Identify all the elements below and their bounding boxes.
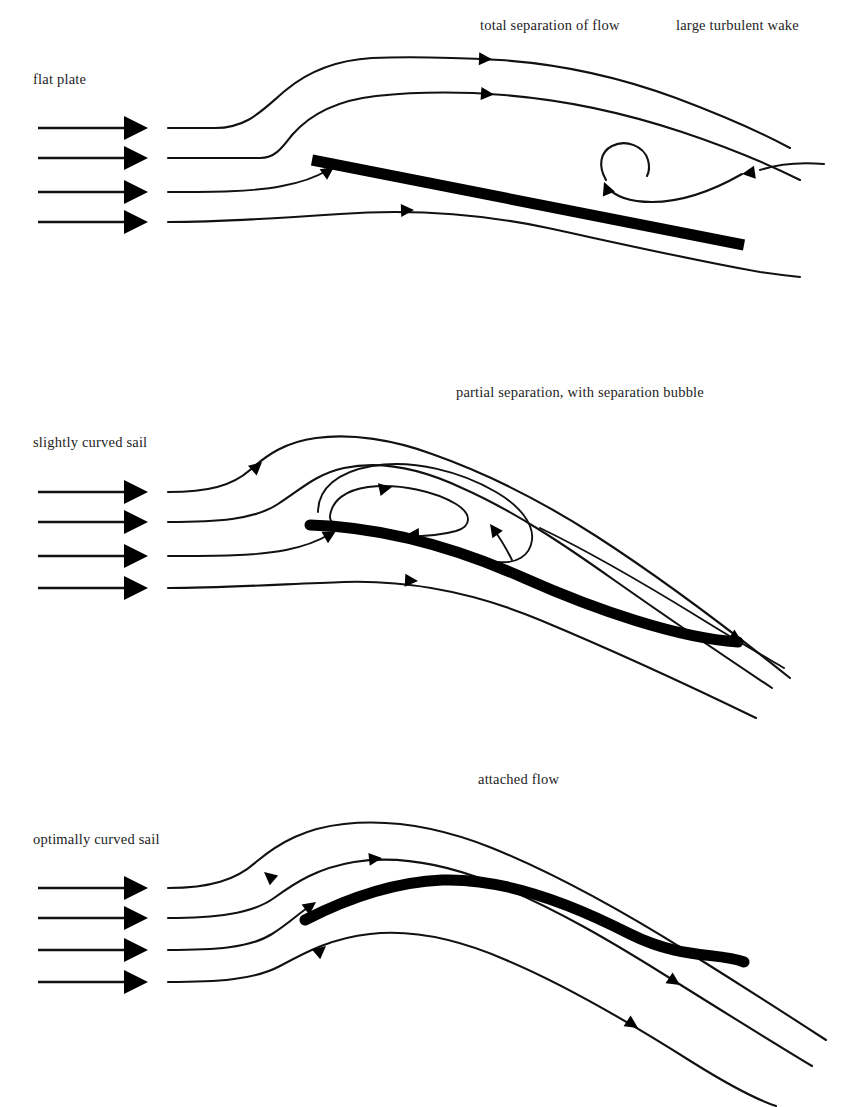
- streamline-3-panel1: [168, 170, 328, 192]
- slightly-curved-sail-foil: [310, 525, 738, 642]
- streamline-arrowhead: [666, 972, 684, 990]
- streamline-1-panel3: [168, 823, 826, 1040]
- panel-flat-plate: [38, 52, 824, 277]
- panel-slightly-curved-sail: [38, 436, 790, 718]
- label-attached-flow: attached flow: [478, 772, 559, 787]
- diagram-canvas: [0, 0, 858, 1107]
- label-flat-plate: flat plate: [33, 72, 86, 87]
- label-total-separation: total separation of flow: [480, 18, 620, 33]
- streamline-arrowhead: [368, 852, 382, 866]
- streamline-arrowhead: [260, 867, 278, 885]
- streamline-arrowhead: [401, 204, 414, 217]
- streamline-4-panel1: [168, 212, 800, 277]
- inlet-arrows-panel1: [38, 116, 148, 234]
- wake-arrowhead-upward: [598, 180, 615, 197]
- label-optimally-curved-sail: optimally curved sail: [33, 832, 160, 847]
- wake-vortex-sweep: [606, 174, 742, 202]
- streamline-arrowhead: [481, 87, 495, 101]
- streamline-arrowhead: [479, 52, 492, 65]
- streamline-4-panel2: [168, 582, 756, 718]
- inlet-arrow-head: [124, 116, 148, 140]
- inlet-arrow-head: [124, 210, 148, 234]
- label-partial-separation: partial separation, with separation bubb…: [456, 385, 704, 400]
- inlet-arrow-head: [124, 480, 148, 504]
- label-slightly-curved-sail: slightly curved sail: [33, 435, 147, 450]
- reattachment-arrowhead: [485, 520, 503, 538]
- inlet-arrow-head: [124, 510, 148, 534]
- inlet-arrow-head: [124, 180, 148, 204]
- streamline-3-panel2: [168, 534, 330, 556]
- streamline-2-panel3: [168, 860, 812, 1066]
- optimally-curved-sail-foil: [305, 880, 744, 962]
- wake-vortex-panel1: [760, 163, 824, 170]
- streamline-2-panel2: [168, 465, 772, 688]
- inlet-arrow-head: [124, 970, 148, 994]
- inlet-arrow-head: [124, 906, 148, 930]
- flow-separation-figure: total separation of flow large turbulent…: [0, 0, 858, 1107]
- bubble-arrowhead-top: [378, 481, 393, 496]
- streamline-2-panel1: [168, 93, 800, 181]
- wake-arrowhead-inbound: [741, 166, 756, 181]
- inlet-arrow-head: [124, 576, 148, 600]
- wake-vortex-spiral: [601, 143, 649, 180]
- inlet-arrows-panel2: [38, 480, 148, 600]
- inlet-arrow-head: [124, 146, 148, 170]
- streamline-arrowhead: [624, 1015, 642, 1033]
- inlet-arrow-head: [124, 876, 148, 900]
- inlet-arrow-head: [124, 938, 148, 962]
- inlet-arrow-head: [124, 544, 148, 568]
- flat-plate-foil: [312, 160, 744, 245]
- panel-optimally-curved-sail: [38, 823, 826, 1106]
- streamline-4-panel3: [168, 933, 776, 1106]
- streamline-1-panel1: [168, 57, 790, 148]
- label-turbulent-wake: large turbulent wake: [676, 18, 799, 33]
- inlet-arrows-panel3: [38, 876, 148, 994]
